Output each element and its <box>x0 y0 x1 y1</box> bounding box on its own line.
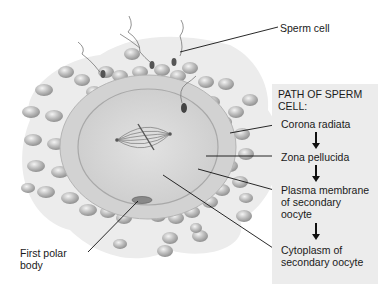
label-sperm-cell: Sperm cell <box>280 22 330 34</box>
step-plasma-membrane-line3: oocyte <box>281 208 369 220</box>
step-plasma-membrane-line2: of secondary <box>281 196 369 208</box>
step-cytoplasm-line1: Cytoplasm of <box>281 244 363 256</box>
path-box-title-line1: PATH OF SPERM <box>278 88 362 100</box>
arrow-down-icon <box>315 165 317 177</box>
label-first-polar-body: First polar body <box>20 247 67 271</box>
step-corona-radiata: Corona radiata <box>281 118 350 130</box>
step-zona-pellucida: Zona pellucida <box>281 151 349 163</box>
label-first-polar-body-line1: First polar <box>20 247 67 259</box>
label-first-polar-body-line2: body <box>20 259 67 271</box>
step-plasma-membrane-line1: Plasma membrane <box>281 184 369 196</box>
path-box-title-line2: CELL: <box>278 100 362 112</box>
first-polar-body <box>132 197 152 204</box>
step-cytoplasm-line2: secondary oocyte <box>281 256 363 268</box>
step-plasma-membrane: Plasma membrane of secondary oocyte <box>281 184 369 220</box>
arrow-down-icon <box>315 223 317 235</box>
path-box-title: PATH OF SPERM CELL: <box>278 88 362 112</box>
arrow-down-icon <box>315 132 317 144</box>
step-cytoplasm: Cytoplasm of secondary oocyte <box>281 244 363 268</box>
